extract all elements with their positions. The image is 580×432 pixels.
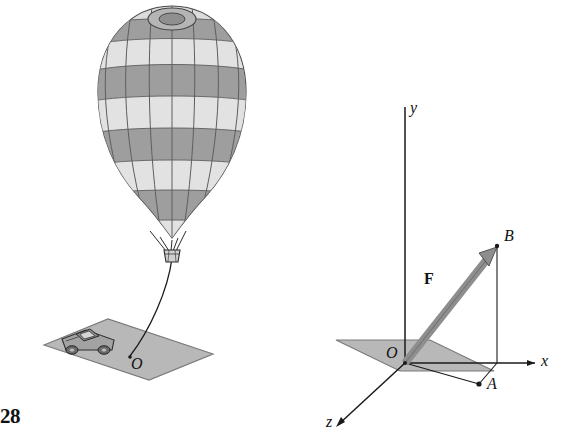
right-scene <box>0 0 535 427</box>
x-axis-label: x <box>541 352 548 370</box>
force-vector-label: F <box>424 270 434 288</box>
point-b-label: B <box>504 227 514 245</box>
figure-illustration <box>0 0 580 432</box>
force-vector-arrow <box>405 247 497 363</box>
y-axis-label: y <box>410 99 417 117</box>
hot-air-balloon <box>86 4 260 262</box>
z-axis-label: z <box>326 413 332 431</box>
problem-number: 28 <box>0 404 20 429</box>
left-origin-label: O <box>131 355 143 373</box>
right-origin-label: O <box>386 344 398 362</box>
x-axis-arrowhead <box>527 360 535 366</box>
balloon-basket <box>164 250 180 262</box>
point-b-dot <box>495 244 499 248</box>
left-scene <box>44 4 260 380</box>
right-origin-dot <box>403 361 407 365</box>
point-a-dot <box>476 381 481 386</box>
z-axis-arrowhead <box>336 417 345 427</box>
point-a-label: A <box>487 375 497 393</box>
